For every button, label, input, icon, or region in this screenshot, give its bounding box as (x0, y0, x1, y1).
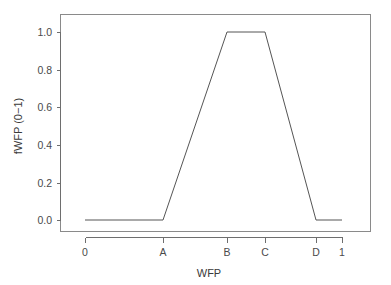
x-tick-label-C: C (261, 246, 269, 258)
x-tick-label-B: B (223, 246, 230, 258)
x-tick-label-1: 1 (339, 246, 345, 258)
trapezoidal-membership-plot: 1.0 0.8 0.6 0.4 0.2 0.0 fWFP (0−1) 0 A B… (0, 0, 391, 285)
y-tick-label-0.0: 0.0 (37, 214, 52, 226)
chart-figure: 1.0 0.8 0.6 0.4 0.2 0.0 fWFP (0−1) 0 A B… (0, 0, 391, 285)
y-tick-label-0.6: 0.6 (37, 101, 52, 113)
x-tick-label-D: D (312, 246, 320, 258)
y-tick-label-0.4: 0.4 (37, 139, 52, 151)
y-axis-title: fWFP (0−1) (12, 98, 24, 154)
y-tick-label-1.0: 1.0 (37, 26, 52, 38)
x-tick-label-A: A (159, 246, 166, 258)
figure-background (0, 0, 391, 285)
y-tick-label-0.8: 0.8 (37, 64, 52, 76)
x-tick-label-0: 0 (82, 246, 88, 258)
x-axis-title: WFP (197, 267, 221, 279)
y-tick-label-0.2: 0.2 (37, 177, 52, 189)
